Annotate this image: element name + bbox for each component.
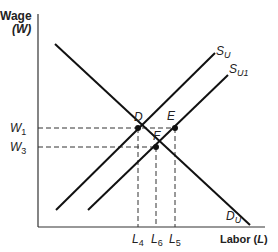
du-label: DU	[226, 209, 242, 225]
labor-market-chart: D E F SU SU1 DU Wage (W) W1 W3 L4 L6 L5 …	[0, 0, 278, 252]
point-f-label: F	[153, 129, 161, 143]
y-tick-w3: W3	[10, 140, 26, 156]
point-d	[135, 125, 141, 131]
point-e	[172, 125, 178, 131]
x-axis-label: Labor (L)	[220, 233, 268, 245]
x-tick-l4: L4	[132, 232, 144, 248]
y-tick-w1: W1	[10, 121, 26, 137]
point-e-label: E	[167, 109, 176, 123]
point-f	[153, 144, 159, 150]
y-axis-label-line2: (W)	[12, 22, 31, 36]
x-tick-l6: L6	[151, 232, 163, 248]
x-tick-l5: L5	[169, 232, 181, 248]
su-label: SU	[216, 44, 231, 60]
y-axis-label-line1: Wage	[0, 9, 32, 23]
su1-label: SU1	[229, 62, 249, 78]
supply-curve-su	[56, 53, 215, 210]
point-d-label: D	[134, 110, 143, 124]
